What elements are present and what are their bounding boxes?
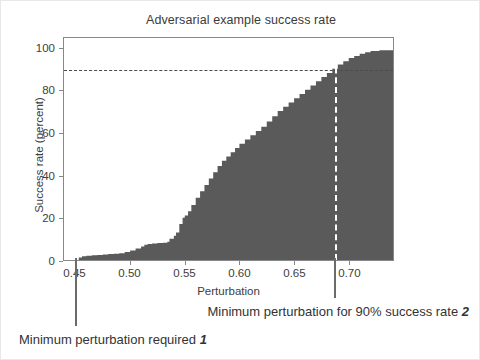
y-tick-label: 20 [11, 212, 55, 224]
annotation-2-marker: 2 [462, 304, 469, 319]
y-tick-mark [59, 261, 63, 262]
y-tick-label: 100 [11, 42, 55, 54]
plot-area [63, 37, 394, 261]
figure-container: Adversarial example success rate Success… [0, 0, 480, 360]
y-tick-label: 0 [11, 255, 55, 267]
annotation-1-label: Minimum perturbation required [19, 332, 200, 347]
chart-title: Adversarial example success rate [1, 13, 480, 27]
y-tick-label: 80 [11, 84, 55, 96]
y-tick-label: 40 [11, 170, 55, 182]
x-tick-mark [294, 261, 295, 265]
annotation-1-marker: 1 [200, 332, 207, 347]
minimum-perturbation-90-reference-line [335, 38, 337, 260]
success-rate-90-reference-line [64, 70, 393, 71]
x-tick-mark [185, 261, 186, 265]
annotation-2-text: Minimum perturbation for 90% success rat… [207, 304, 469, 319]
annotation-2-label: Minimum perturbation for 90% success rat… [207, 304, 461, 319]
x-axis-label: Perturbation [63, 285, 394, 297]
annotation-1-text: Minimum perturbation required 1 [19, 332, 207, 347]
annotation-1-pointer-line [75, 258, 77, 326]
x-tick-label: 0.55 [155, 267, 215, 279]
x-tick-label: 0.65 [264, 267, 324, 279]
x-tick-mark [349, 261, 350, 265]
x-tick-label: 0.60 [209, 267, 269, 279]
x-tick-label: 0.50 [100, 267, 160, 279]
annotation-2-pointer-line [334, 258, 336, 298]
success-rate-area-curve [64, 38, 393, 260]
x-tick-mark [130, 261, 131, 265]
x-tick-mark [239, 261, 240, 265]
y-tick-label: 60 [11, 127, 55, 139]
x-tick-label: 0.70 [319, 267, 379, 279]
